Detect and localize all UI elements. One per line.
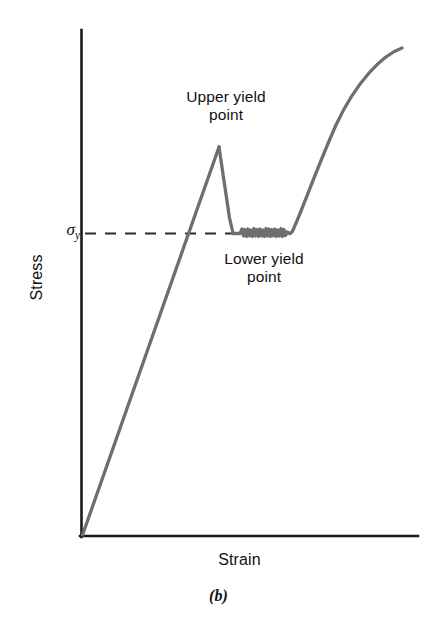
sigma-subscript: y	[75, 229, 80, 241]
sigma-glyph: σ	[66, 220, 74, 239]
curve-serrated-plateau	[233, 229, 290, 237]
annotation-upper-yield-point: Upper yield point	[166, 88, 286, 125]
annotation-lower-yield-point: Lower yield point	[205, 250, 323, 287]
curve-strain-hardening	[290, 48, 402, 234]
y-axis-label: Stress	[28, 236, 47, 318]
stress-strain-figure: Upper yield point Lower yield point Stre…	[0, 0, 437, 619]
figure-caption: (b)	[0, 587, 437, 606]
y-axis-tick-label-sigma-y: σy	[54, 220, 80, 242]
x-axis-label: Strain	[182, 551, 297, 570]
curve-yield-drop	[219, 147, 233, 233]
curve-elastic-region	[83, 147, 220, 535]
